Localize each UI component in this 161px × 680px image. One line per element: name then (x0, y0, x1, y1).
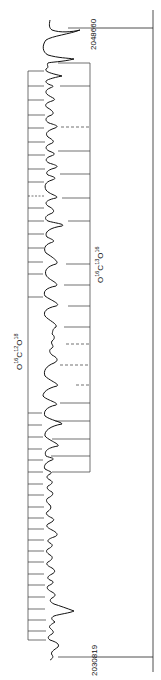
isotope-mass: 13 (94, 259, 100, 265)
atom-o: O (15, 340, 24, 346)
top-wavenumber-text: 2048660 (89, 19, 98, 50)
left-bracket-label: O16C12O18 (13, 333, 24, 370)
isotope-mass: 16 (94, 271, 100, 277)
axis-frame (96, 10, 153, 672)
atom-c: C (15, 352, 24, 358)
spectrum-trace (43, 20, 80, 660)
right-bracket-label: O16C13O16 (94, 246, 105, 283)
atom-c: C (96, 265, 105, 271)
atom-o: O (96, 253, 105, 259)
atom-o: O (15, 364, 24, 370)
top-wavenumber-label: 2048660 (89, 19, 98, 50)
atom-o: O (96, 277, 105, 283)
bottom-wavenumber-text: 2030819 (90, 645, 99, 676)
isotope-mass: 12 (13, 346, 19, 352)
isotope-mass: 18 (13, 333, 19, 339)
spectrum-chart (0, 0, 161, 680)
isotope-mass: 16 (94, 246, 100, 252)
isotope-mass: 16 (13, 358, 19, 364)
right-assignment-bracket (51, 63, 90, 472)
bottom-wavenumber-label: 2030819 (90, 645, 99, 676)
left-assignment-bracket (28, 71, 46, 640)
